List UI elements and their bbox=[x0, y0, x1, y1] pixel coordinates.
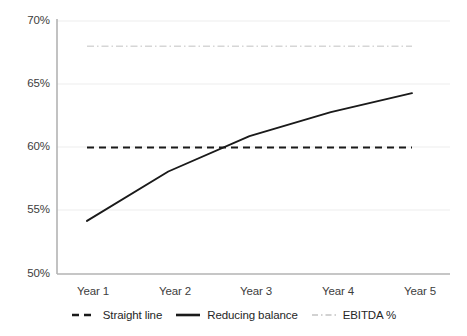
x-tick-label-year-3: Year 3 bbox=[221, 285, 291, 297]
legend-swatch-ebitda-icon bbox=[311, 310, 337, 320]
legend-item-ebitda[interactable]: EBITDA % bbox=[311, 309, 397, 321]
legend-label-reducing-balance: Reducing balance bbox=[207, 309, 297, 321]
chart-container: 70% 65% 60% 55% 50% Year 1 Year 2 Year 3… bbox=[0, 0, 467, 336]
y-tick-label-55: 55% bbox=[6, 203, 50, 215]
y-tick-label-70: 70% bbox=[6, 14, 50, 26]
legend-swatch-straight-line-icon bbox=[71, 310, 97, 320]
chart-legend: Straight line Reducing balance EBITDA % bbox=[0, 309, 467, 321]
x-tick-label-year-5: Year 5 bbox=[385, 285, 455, 297]
x-tick-label-year-2: Year 2 bbox=[140, 285, 210, 297]
x-tick-label-year-4: Year 4 bbox=[303, 285, 373, 297]
legend-label-ebitda: EBITDA % bbox=[343, 309, 397, 321]
y-tick-label-65: 65% bbox=[6, 77, 50, 89]
legend-swatch-reducing-balance-icon bbox=[175, 310, 201, 320]
legend-item-straight-line[interactable]: Straight line bbox=[71, 309, 162, 321]
x-tick-label-year-1: Year 1 bbox=[58, 285, 128, 297]
legend-label-straight-line: Straight line bbox=[103, 309, 162, 321]
y-tick-label-60: 60% bbox=[6, 140, 50, 152]
legend-item-reducing-balance[interactable]: Reducing balance bbox=[175, 309, 297, 321]
series-line-reducing-balance bbox=[87, 93, 412, 221]
y-tick-label-50: 50% bbox=[6, 267, 50, 279]
gridlines bbox=[57, 21, 450, 210]
